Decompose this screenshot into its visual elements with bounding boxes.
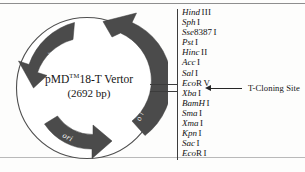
- restriction-site-row: SalI: [182, 68, 244, 78]
- restriction-site-name: Sma: [182, 108, 198, 118]
- restriction-site-isoschizomer: I: [198, 88, 201, 98]
- connector-line-upper: [150, 84, 178, 85]
- restriction-site-row: AccI: [182, 57, 244, 67]
- restriction-site-row: EcoRI: [182, 148, 244, 158]
- t-cloning-site-callout: T-Cloning Site: [205, 82, 300, 94]
- restriction-site-isoschizomer: I: [199, 128, 202, 138]
- restriction-site-name: Sal: [182, 68, 194, 78]
- restriction-site-name: Xba: [182, 88, 197, 98]
- restriction-site-row: PstI: [182, 37, 244, 47]
- restriction-site-isoschizomer: I: [197, 138, 200, 148]
- top-divider-rule: [0, 3, 305, 4]
- restriction-site-isoschizomer: III: [202, 7, 212, 17]
- restriction-site-isoschizomer: I: [195, 37, 198, 47]
- restriction-site-row: HincII: [182, 47, 244, 57]
- vector-name-superscript: TM: [69, 72, 79, 79]
- restriction-site-isoschizomer: I: [199, 108, 202, 118]
- restriction-site-row: SphI: [182, 17, 244, 27]
- restriction-site-isoschizomer: I: [204, 148, 207, 158]
- arrow-shaft: [210, 88, 242, 89]
- connector-line-lower: [150, 91, 178, 92]
- mcs-connector-lines: [150, 84, 178, 93]
- gene-label-lacz-alpha: / o / o: [136, 99, 147, 122]
- restriction-site-isoschizomer: I: [195, 68, 198, 78]
- restriction-site-name: Eco: [182, 148, 196, 158]
- vector-name: pMDTM18-T Vertor: [30, 72, 148, 86]
- vector-size-label: (2692 bp): [30, 87, 148, 100]
- restriction-site-row: Sse8387I: [182, 27, 244, 37]
- mcs-bracket-bar: [177, 9, 178, 160]
- t-cloning-site-label: T-Cloning Site: [248, 83, 300, 93]
- restriction-site-name: Hinc: [182, 47, 200, 57]
- restriction-site-name: BamH: [182, 98, 205, 108]
- restriction-site-isoschizomer: I: [197, 17, 200, 27]
- vector-name-prefix: pMD: [45, 73, 69, 85]
- restriction-site-row: KpnI: [182, 128, 244, 138]
- t-cloning-arrow-icon: [205, 85, 242, 92]
- plasmid-map-figure: Ampr lacZ / o / o ori pMDTM18-T Vertor (…: [0, 0, 305, 172]
- restriction-site-name: Acc: [182, 57, 196, 67]
- restriction-site-row: SacI: [182, 138, 244, 148]
- restriction-site-row: HindIII: [182, 7, 244, 17]
- restriction-site-isoschizomer: II: [201, 47, 207, 57]
- arrow-head: [205, 85, 211, 91]
- restriction-site-name: Sac: [182, 138, 195, 148]
- restriction-site-number: R: [196, 148, 202, 158]
- restriction-site-name: Pst: [182, 37, 194, 47]
- restriction-site-number: R: [196, 78, 202, 88]
- restriction-site-name: Sph: [182, 17, 196, 27]
- restriction-site-isoschizomer: I: [200, 118, 203, 128]
- restriction-site-row: XmaI: [182, 118, 244, 128]
- restriction-site-name: Xma: [182, 118, 199, 128]
- restriction-site-isoschizomer: I: [214, 27, 217, 37]
- restriction-site-isoschizomer: I: [197, 57, 200, 67]
- restriction-site-name: Hind: [182, 7, 200, 17]
- restriction-site-row: SmaI: [182, 108, 244, 118]
- restriction-site-row: BamHI: [182, 98, 244, 108]
- vector-caption: pMDTM18-T Vertor (2692 bp): [30, 72, 148, 100]
- restriction-site-name: Kpn: [182, 128, 197, 138]
- restriction-site-name: Sse: [182, 27, 194, 37]
- restriction-site-isoschizomer: I: [207, 98, 210, 108]
- gene-label-lacz: lacZ: [127, 56, 137, 73]
- restriction-site-number: 8387: [194, 27, 212, 37]
- restriction-site-name: Eco: [182, 78, 196, 88]
- vector-name-suffix: 18-T Vertor: [79, 73, 133, 85]
